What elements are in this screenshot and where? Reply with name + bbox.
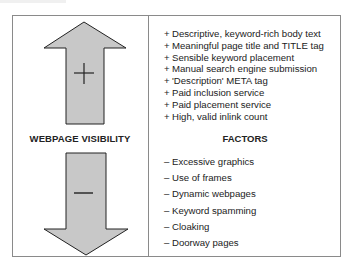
list-item: –Cloaking: [164, 219, 256, 235]
list-item: +Manual search engine submission: [164, 63, 324, 75]
list-item: +High, valid inlink count: [164, 111, 324, 123]
webpage-visibility-label: WEBPAGE VISIBILITY: [12, 133, 148, 144]
list-item: +Paid placement service: [164, 99, 324, 111]
list-item: +Paid inclusion service: [164, 87, 324, 99]
up-arrow-icon: [44, 22, 126, 124]
list-item: –Use of frames: [164, 170, 256, 186]
negative-factors-list: –Excessive graphics –Use of frames –Dyna…: [164, 154, 256, 251]
list-item: –Doorway pages: [164, 235, 256, 251]
list-item: +Descriptive, keyword-rich body text: [164, 28, 324, 40]
positive-factors-list: +Descriptive, keyword-rich body text +Me…: [164, 28, 324, 122]
list-item: +Meaningful page title and TITLE tag: [164, 40, 324, 52]
list-item: –Dynamic webpages: [164, 186, 256, 202]
list-item: –Keyword spamming: [164, 203, 256, 219]
down-arrow-icon: [44, 153, 128, 255]
list-item: +'Description' META tag: [164, 75, 324, 87]
factors-label: FACTORS: [149, 133, 341, 144]
list-item: +Sensible keyword placement: [164, 52, 324, 64]
list-item: –Excessive graphics: [164, 154, 256, 170]
